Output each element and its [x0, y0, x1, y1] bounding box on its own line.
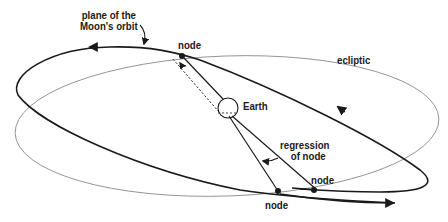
- node-right-dot: [311, 187, 317, 193]
- regression-label-line2: of node: [280, 151, 330, 162]
- earth-label: Earth: [243, 101, 268, 112]
- plane-of-moon-orbit-label: plane of the Moon's orbit: [80, 10, 138, 32]
- plane-label-line2: Moon's orbit: [80, 21, 138, 32]
- small-regression-arrow-top: [180, 63, 186, 66]
- node-top-dot: [179, 53, 185, 59]
- plane-pointer-arrow: [140, 25, 145, 44]
- earth-circle: [218, 98, 238, 118]
- regression-arrow: [263, 158, 278, 161]
- orbit-direction-arrow-right: [338, 107, 345, 112]
- moon-orbit-path: [17, 47, 428, 203]
- node-right-label: node: [311, 175, 334, 186]
- ecliptic-ellipse: [13, 49, 442, 204]
- node-bottom-label: node: [265, 200, 288, 211]
- regression-of-node-label: regression of node: [280, 140, 330, 162]
- node-bottom-dot: [275, 188, 281, 194]
- earth-to-node-bottom-line: [229, 116, 278, 191]
- dashed-previous-node-line: [172, 58, 219, 112]
- ecliptic-label: ecliptic: [337, 55, 370, 66]
- node-top-label: node: [178, 40, 201, 51]
- moon-orbit-diagram: [0, 0, 448, 222]
